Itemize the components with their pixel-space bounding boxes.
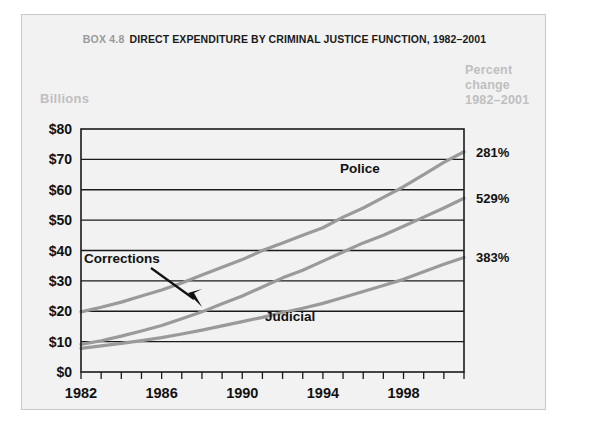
y-tick-label: $70: [49, 151, 73, 167]
percent-value-judicial: 383%: [476, 250, 510, 265]
x-tick-marks: [81, 372, 464, 379]
figure-panel: BOX 4.8DIRECT EXPENDITURE BY CRIMINAL JU…: [21, 14, 546, 410]
y-tick-label: $40: [49, 243, 73, 259]
y-tick-label: $60: [49, 182, 73, 198]
series-line-judicial: [81, 257, 464, 348]
series-line-police: [81, 152, 464, 312]
plot-area: $0$10$20$30$40$50$60$70$80 1982198619901…: [22, 15, 547, 411]
x-tick-label: 1982: [65, 385, 97, 401]
series-label-police: Police: [340, 161, 380, 176]
y-tick-label: $0: [56, 364, 72, 380]
x-tick-label: 1994: [307, 385, 339, 401]
y-tick-label: $10: [49, 334, 73, 350]
percent-value-corrections: 529%: [476, 191, 510, 206]
percent-value-police: 281%: [476, 145, 510, 160]
percent-change-values: 281%529%383%: [476, 145, 510, 266]
x-tick-label: 1998: [387, 385, 419, 401]
y-tick-labels: $0$10$20$30$40$50$60$70$80: [49, 121, 73, 380]
chart-svg: $0$10$20$30$40$50$60$70$80 1982198619901…: [22, 15, 547, 411]
x-tick-label: 1990: [226, 385, 258, 401]
y-tick-label: $20: [49, 303, 73, 319]
series-label-judicial: Judicial: [265, 309, 315, 324]
y-tick-label: $50: [49, 212, 73, 228]
corrections-arrowhead-icon: [188, 289, 202, 307]
y-tick-label: $80: [49, 121, 73, 137]
x-tick-labels: 19821986199019941998: [65, 385, 420, 401]
series-label-corrections: Corrections: [84, 251, 160, 266]
x-tick-label: 1986: [145, 385, 177, 401]
y-tick-label: $30: [49, 273, 73, 289]
corrections-arrow-icon: [151, 268, 194, 299]
